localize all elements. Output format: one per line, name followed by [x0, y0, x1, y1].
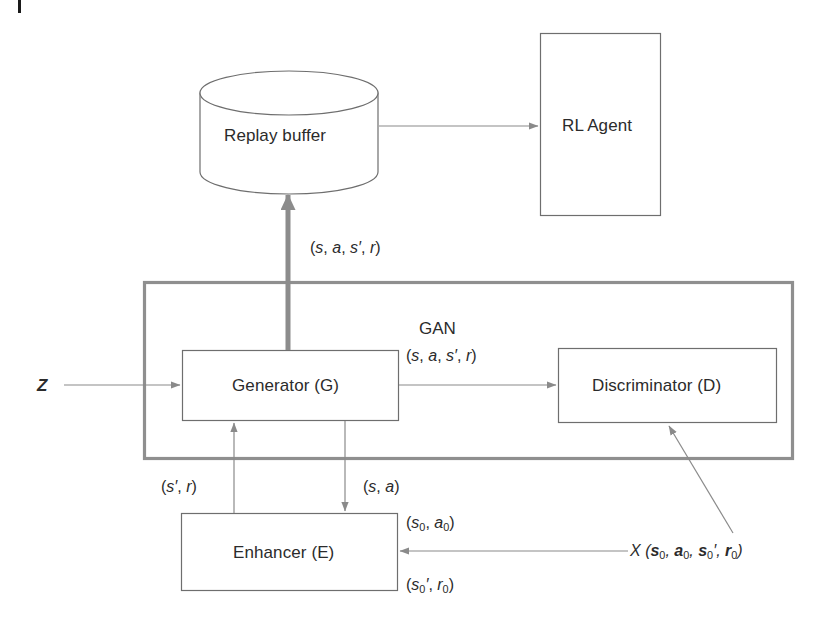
- noise-input-label: Z: [37, 377, 47, 394]
- gan-group-box: [145, 283, 793, 459]
- replay-buffer-label: Replay buffer: [224, 127, 326, 144]
- enhancer-input-bottom-label: (s0′, r0): [406, 577, 454, 595]
- rl-agent-label: RL Agent: [562, 117, 632, 134]
- dataset-label: X (s0, a0, s0′, r0): [630, 543, 743, 561]
- generator-to-enhancer-label: (s, a): [363, 479, 399, 495]
- enhancer-input-top-label: (s0, a0): [406, 515, 455, 533]
- gan-pair-label: (s, a, s′, r): [406, 348, 477, 364]
- buffer-input-label: (s, a, s′, r): [310, 240, 381, 256]
- generator-label: Generator (G): [232, 377, 339, 394]
- discriminator-label: Discriminator (D): [592, 377, 721, 394]
- page-corner-tick: [18, 0, 21, 13]
- arrow-dataset-to-discriminator: [669, 426, 733, 533]
- enhancer-label: Enhancer (E): [233, 544, 334, 561]
- gan-title-label: GAN: [419, 320, 456, 337]
- enhancer-to-generator-label: (s′, r): [161, 479, 197, 495]
- diagram-canvas: Replay buffer RL Agent Generator (G) Dis…: [0, 0, 827, 620]
